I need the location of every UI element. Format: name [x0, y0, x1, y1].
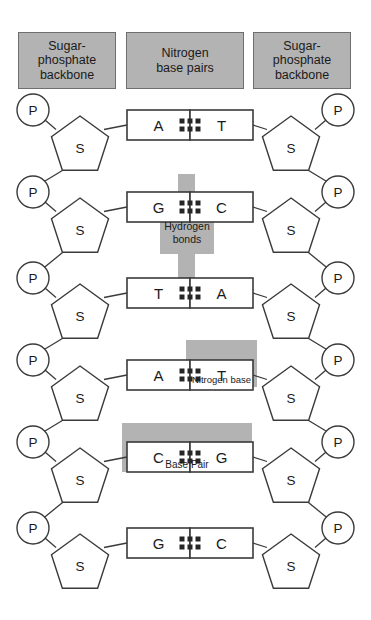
hydrogen-bond-dot: [196, 127, 201, 132]
phosphate-left: P: [17, 94, 49, 126]
base-letter-right: G: [216, 449, 228, 466]
backbone-link-right-s-to-p: [308, 420, 327, 431]
backbone-link-right-s-to-p: [308, 338, 327, 349]
backbone-link-right-p-to-s: [315, 452, 326, 462]
base-box-left-G: G: [127, 528, 190, 558]
backbone-link-left-p-to-s: [45, 120, 56, 130]
backbone-link-right-p-to-s: [315, 370, 326, 380]
base-box-left-A: A: [127, 110, 190, 140]
base-letter-left: A: [153, 367, 163, 384]
phosphate-left: P: [17, 344, 49, 376]
backbone-link-left-s-to-p: [44, 338, 63, 349]
backbone-link-left-s-to-p: [44, 170, 63, 181]
sugar-right: S: [262, 116, 319, 170]
hydrogen-bond-dot: [196, 545, 201, 550]
hydrogen-bond-dot: [180, 287, 185, 292]
sugar-to-base-right: [253, 293, 267, 298]
backbone-link-left-p-to-s: [45, 288, 56, 298]
phosphate-right: P: [322, 94, 354, 126]
backbone-link-left-s-to-p: [44, 420, 63, 431]
base-box-right-T: T: [190, 110, 253, 140]
hydrogen-bond-dot: [196, 201, 201, 206]
backbone-link-left-p-to-s: [45, 202, 56, 212]
sugar-to-base-right: [253, 125, 267, 130]
sugar-label: S: [286, 559, 295, 574]
sugar-to-base-left: [104, 293, 127, 298]
phosphate-right: P: [322, 426, 354, 458]
phosphate-left: P: [17, 176, 49, 208]
hydrogen-bond-dot: [196, 287, 201, 292]
sugar-label: S: [75, 141, 84, 156]
sugar-right: S: [262, 366, 319, 420]
sugar-left: S: [51, 198, 108, 252]
dna-structure-svg: ATGCTAATCGGC PPSSPPSSPPSSPPSSPPSSPPSS Hy…: [0, 0, 371, 620]
sugar-right: S: [262, 284, 319, 338]
sugar-right: S: [262, 198, 319, 252]
hydrogen-bond-dot: [188, 451, 193, 456]
sugar-to-base-left: [104, 375, 127, 380]
annotation-label-hydrogen-bonds: bonds: [173, 233, 202, 245]
phosphate-label: P: [28, 521, 37, 536]
backbone-link-right-p-to-s: [315, 120, 326, 130]
sugar-label: S: [286, 309, 295, 324]
phosphate-left: P: [17, 262, 49, 294]
base-box-left-A: A: [127, 360, 190, 390]
hydrogen-bond-dot: [196, 451, 201, 456]
hydrogen-bond-dot: [180, 369, 185, 374]
sugar-label: S: [286, 141, 295, 156]
annotation-label-hydrogen-bonds: Hydrogen: [164, 220, 210, 232]
sugar-to-base-left: [104, 207, 127, 212]
phosphate-label: P: [333, 185, 342, 200]
backbone-link-left-s-to-p: [44, 252, 63, 267]
hydrogen-bond-dot: [188, 119, 193, 124]
phosphate-label: P: [333, 103, 342, 118]
hydrogen-bond-dot: [188, 545, 193, 550]
sugar-label: S: [286, 473, 295, 488]
backbone-link-left-p-to-s: [45, 538, 56, 548]
sugar-right: S: [262, 534, 319, 588]
backbone-link-right-p-to-s: [315, 538, 326, 548]
backbone-link-right-p-to-s: [315, 202, 326, 212]
hydrogen-bond-dot: [180, 377, 185, 382]
sugar-to-base-left: [104, 125, 127, 130]
hydrogen-bond-dot: [196, 537, 201, 542]
hydrogen-bond-dot: [188, 201, 193, 206]
base-letter-left: C: [153, 449, 164, 466]
backbone-link-left-p-to-s: [45, 370, 56, 380]
sugar-label: S: [75, 473, 84, 488]
sugar-to-base-left: [104, 543, 127, 548]
phosphate-left: P: [17, 426, 49, 458]
hydrogen-bond-dot: [188, 287, 193, 292]
hydrogen-bond-dot: [196, 369, 201, 374]
backbone-units-layer: PPSSPPSSPPSSPPSSPPSSPPSS: [17, 94, 354, 588]
base-letter-right: C: [216, 535, 227, 552]
hydrogen-bond-dot: [188, 127, 193, 132]
hydrogen-bond-dot: [180, 209, 185, 214]
hydrogen-bond-dot: [196, 295, 201, 300]
backbone-link-left-s-to-p: [44, 502, 63, 517]
base-box-left-T: T: [127, 278, 190, 308]
sugar-to-base-right: [253, 207, 267, 212]
backbone-link-right-s-to-p: [308, 502, 327, 517]
sugar-label: S: [75, 391, 84, 406]
sugar-left: S: [51, 534, 108, 588]
sugar-left: S: [51, 116, 108, 170]
phosphate-label: P: [28, 271, 37, 286]
phosphate-right: P: [322, 512, 354, 544]
base-letter-right: A: [216, 285, 226, 302]
hydrogen-bond-dot: [180, 537, 185, 542]
base-letter-left: G: [153, 535, 165, 552]
base-box-right-C: C: [190, 528, 253, 558]
phosphate-left: P: [17, 512, 49, 544]
sugar-right: S: [262, 448, 319, 502]
hydrogen-bond-dot: [180, 295, 185, 300]
hydrogen-bond-dot: [180, 451, 185, 456]
sugar-label: S: [75, 223, 84, 238]
sugar-to-base-right: [253, 457, 267, 462]
hydrogen-bond-dot: [180, 119, 185, 124]
base-letter-right: T: [217, 117, 226, 134]
backbone-link-right-s-to-p: [308, 170, 327, 181]
phosphate-label: P: [333, 521, 342, 536]
hydrogen-bond-dot: [180, 545, 185, 550]
backbone-link-right-p-to-s: [315, 288, 326, 298]
